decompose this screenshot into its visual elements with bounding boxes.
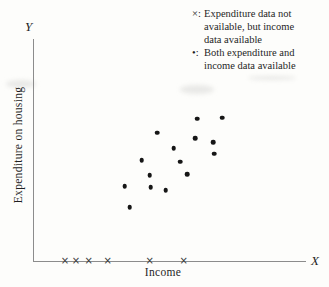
scatter-point-dot [185,172,190,177]
scatter-point-dot [148,185,153,190]
scatter-point-dot [220,115,225,120]
scatter-point-dot [193,136,198,141]
legend-text-line: data available [204,33,294,46]
legend: ×: Expenditure data not available, but i… [192,7,296,72]
legend-item-text: Expenditure data not available, but inco… [204,7,294,46]
scatter-point-x: × [61,256,69,266]
scatter-point-dot [122,184,127,189]
legend-text-line: Expenditure data not [204,7,294,20]
scatter-point-dot [147,173,152,178]
scatter-point-dot [195,116,200,121]
plot-area: ×××××× [33,39,306,262]
scatter-point-dot [163,188,168,193]
scatter-point-dot [178,159,183,164]
dot-marker-icon: •: [192,46,204,72]
scatter-point-dot [171,146,176,151]
y-axis-label: Expenditure on housing [12,87,24,203]
scatter-point-dot [155,130,160,135]
scatter-point-x: × [72,256,80,266]
scatter-point-x: × [179,256,187,266]
scatter-point-x: × [104,256,112,266]
y-axis-symbol: Y [25,19,32,35]
scatter-point-x: × [145,256,153,266]
legend-text-line: available, but income [204,20,294,33]
scatter-point-dot [127,205,132,210]
scatter-point-dot [211,140,216,145]
x-axis-label: Income [145,266,181,278]
scatter-point-x: × [84,256,92,266]
scatter-point-dot [139,158,144,163]
scatter-point-dot [212,151,217,156]
legend-item-both-available: •: Both expenditure and income data avai… [192,46,296,72]
scatter-figure: Y X Expenditure on housing Income ××××××… [0,0,329,287]
x-axis-symbol: X [311,253,319,269]
x-marker-icon: ×: [192,7,204,46]
legend-text-line: income data available [204,59,296,72]
legend-item-missing-expenditure: ×: Expenditure data not available, but i… [192,7,296,46]
legend-text-line: Both expenditure and [204,46,296,59]
legend-item-text: Both expenditure and income data availab… [204,46,296,72]
